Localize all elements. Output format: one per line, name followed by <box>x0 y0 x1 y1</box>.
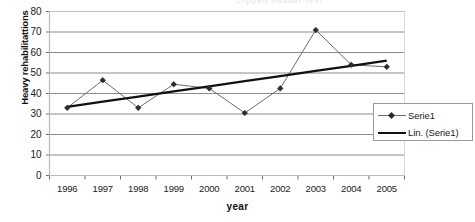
chart-container: clipped header text Heavy rehabilitattio… <box>0 0 475 222</box>
legend-trendline-icon <box>378 127 406 139</box>
legend-item-label: Lin. (Serie1) <box>406 127 458 138</box>
legend-marker-icon <box>378 110 406 122</box>
legend[interactable]: Serie1Lin. (Serie1) <box>373 103 473 141</box>
legend-item-label: Serie1 <box>406 110 435 121</box>
data-point <box>384 64 390 70</box>
x-axis-ticks <box>50 176 405 180</box>
series-trendline <box>67 61 387 107</box>
legend-item[interactable]: Lin. (Serie1) <box>374 125 472 140</box>
data-point <box>171 81 177 87</box>
series-serie1-markers <box>64 27 389 116</box>
legend-item[interactable]: Serie1 <box>374 108 472 123</box>
